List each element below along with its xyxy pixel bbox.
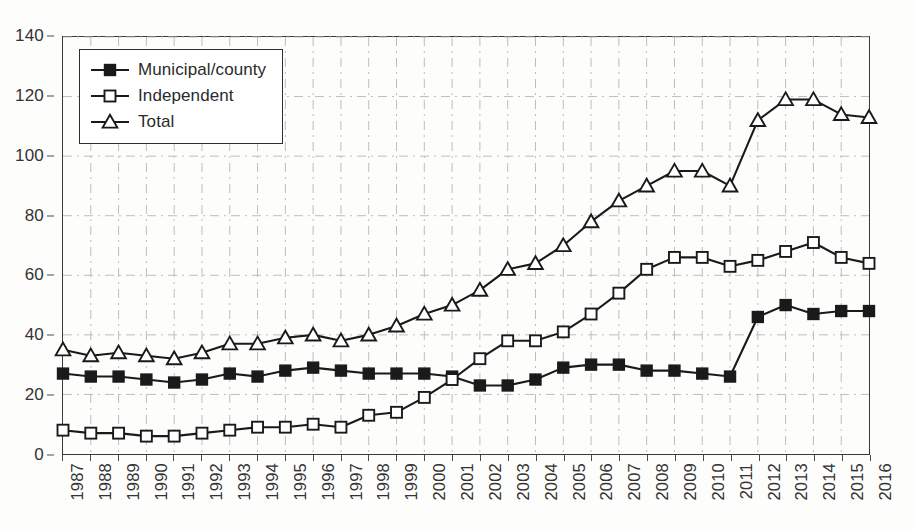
x-tick-label: 1992: [207, 463, 226, 501]
x-tick-mark: [731, 455, 732, 461]
y-tick-label: 80: [25, 206, 44, 226]
y-tick-label: 60: [25, 265, 44, 285]
y-tick-mark: [47, 215, 54, 216]
x-tick-label: 1995: [291, 463, 310, 501]
x-tick-label: 1988: [96, 463, 115, 501]
x-tick-mark: [786, 455, 787, 461]
x-tick-label: 1989: [124, 463, 143, 501]
x-tick-mark: [424, 455, 425, 461]
x-tick-mark: [564, 455, 565, 461]
legend-item: Total: [90, 109, 266, 135]
x-tick-mark: [285, 455, 286, 461]
y-tick-mark: [47, 36, 54, 37]
x-tick-label: 2004: [542, 463, 561, 501]
x-tick-mark: [870, 455, 871, 461]
x-tick-label: 2005: [570, 463, 589, 501]
y-tick-mark: [47, 335, 54, 336]
x-tick-label: 2011: [737, 463, 756, 499]
legend-item: Municipal/county: [90, 57, 266, 83]
x-tick-mark: [368, 455, 369, 461]
x-tick-label: 1991: [179, 463, 198, 501]
x-tick-mark: [62, 455, 63, 461]
x-tick-mark: [675, 455, 676, 461]
x-tick-label: 1994: [263, 463, 282, 501]
x-tick-mark: [146, 455, 147, 461]
x-tick-mark: [759, 455, 760, 461]
series-independent: [58, 237, 875, 442]
legend-item: Independent: [90, 83, 266, 109]
x-tick-mark: [396, 455, 397, 461]
x-tick-label: 2008: [653, 463, 672, 501]
x-tick-label: 1990: [152, 463, 171, 501]
y-tick-label: 140: [15, 26, 44, 46]
x-tick-mark: [480, 455, 481, 461]
x-tick-mark: [201, 455, 202, 461]
x-tick-mark: [814, 455, 815, 461]
x-tick-mark: [118, 455, 119, 461]
x-tick-label: 2001: [458, 463, 477, 501]
x-tick-mark: [173, 455, 174, 461]
legend-label: Municipal/county: [138, 60, 266, 80]
x-tick-mark: [508, 455, 509, 461]
legend-label: Total: [138, 112, 174, 132]
x-tick-label: 1996: [319, 463, 338, 501]
x-tick-mark: [647, 455, 648, 461]
legend: Municipal/countyIndependentTotal: [79, 49, 283, 144]
x-tick-label: 1993: [235, 463, 254, 501]
x-tick-mark: [842, 455, 843, 461]
y-tick-mark: [47, 395, 54, 396]
x-tick-label: 2006: [597, 463, 616, 501]
x-tick-mark: [313, 455, 314, 461]
x-tick-label: 1998: [374, 463, 393, 501]
legend-label: Independent: [138, 86, 234, 106]
x-axis: 1987198819891990199119921993199419951996…: [62, 459, 870, 531]
x-tick-label: 2013: [792, 463, 811, 501]
x-tick-mark: [257, 455, 258, 461]
x-tick-label: 2007: [625, 463, 644, 501]
open-triangle-icon: [90, 113, 130, 131]
x-tick-label: 2003: [514, 463, 533, 501]
y-tick-mark: [47, 155, 54, 156]
y-tick-mark: [47, 95, 54, 96]
x-tick-label: 1999: [402, 463, 421, 501]
x-tick-label: 2010: [709, 463, 728, 501]
series-municipal-county: [58, 300, 875, 391]
x-tick-label: 2000: [430, 463, 449, 501]
y-tick-label: 100: [15, 146, 44, 166]
y-tick-mark: [47, 455, 54, 456]
x-tick-mark: [90, 455, 91, 461]
line-chart: 020406080100120140 Municipal/countyIndep…: [0, 0, 916, 531]
x-tick-mark: [452, 455, 453, 461]
x-tick-label: 1997: [347, 463, 366, 501]
open-square-icon: [90, 87, 130, 105]
x-tick-mark: [591, 455, 592, 461]
x-tick-mark: [536, 455, 537, 461]
x-tick-label: 2016: [876, 463, 895, 501]
x-tick-label: 2014: [820, 463, 839, 501]
x-tick-label: 2015: [848, 463, 867, 501]
x-tick-mark: [619, 455, 620, 461]
y-tick-label: 120: [15, 86, 44, 106]
x-tick-mark: [341, 455, 342, 461]
x-tick-label: 2009: [681, 463, 700, 501]
y-tick-label: 20: [25, 385, 44, 405]
x-tick-label: 1987: [68, 463, 87, 501]
filled-square-icon: [90, 61, 130, 79]
y-axis: 020406080100120140: [0, 36, 54, 455]
x-tick-label: 2002: [486, 463, 505, 501]
y-tick-label: 0: [34, 445, 44, 465]
y-tick-label: 40: [25, 325, 44, 345]
x-tick-label: 2012: [765, 463, 784, 501]
x-tick-mark: [229, 455, 230, 461]
x-tick-mark: [703, 455, 704, 461]
y-tick-mark: [47, 275, 54, 276]
